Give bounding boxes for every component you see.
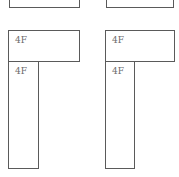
right-column-label: 4F [112,67,124,76]
left-floor-box: 4F [8,30,80,62]
right-floor-box: 4F [105,30,175,62]
left-column-label: 4F [15,67,27,76]
left-column-box: 4F [8,61,39,169]
right-top-box [106,0,174,8]
left-floor-label: 4F [15,36,27,45]
right-floor-label: 4F [112,36,124,45]
right-column-box: 4F [105,61,135,169]
left-top-box [9,0,80,8]
